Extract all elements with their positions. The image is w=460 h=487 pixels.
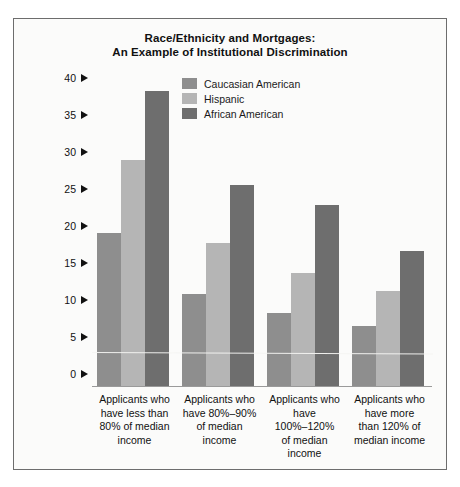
y-axis-tick: 5 <box>60 331 92 343</box>
x-axis-label-line: of median <box>262 434 348 448</box>
tick-arrow-icon <box>81 74 88 82</box>
x-axis-label-line: 100%–120% <box>262 420 348 434</box>
x-axis-label-line: Applicants who <box>177 393 263 407</box>
y-axis-tick-label: 40 <box>60 72 76 84</box>
tick-arrow-icon <box>81 259 88 267</box>
x-axis-category-label: Applicants whohave 80%–90%of medianincom… <box>177 393 263 447</box>
tick-arrow-icon <box>81 148 88 156</box>
x-axis-label-line: of median <box>177 420 263 434</box>
x-axis-label-line: have <box>262 407 348 421</box>
y-axis-tick: 10 <box>60 294 92 306</box>
y-axis-tick: 25 <box>60 183 92 195</box>
y-axis-tick: 0 <box>60 368 92 380</box>
x-axis-label-line: than 120% of <box>347 420 433 434</box>
bar-group <box>97 75 169 386</box>
x-axis-category-label: Applicants whohave100%–120%of medianinco… <box>262 393 348 461</box>
x-axis-label-line: income <box>262 447 348 461</box>
tick-arrow-icon <box>81 111 88 119</box>
x-axis-label-line: have less than <box>92 407 178 421</box>
y-axis-tick-label: 15 <box>60 257 76 269</box>
y-axis-tick-label: 10 <box>60 294 76 306</box>
chart-title: Race/Ethnicity and Mortgages: An Example… <box>14 31 446 59</box>
x-axis-label-line: income <box>177 434 263 448</box>
y-axis-tick-label: 5 <box>60 331 76 343</box>
x-axis-label-line: income <box>92 434 178 448</box>
y-axis-tick: 15 <box>60 257 92 269</box>
tick-arrow-icon <box>81 370 88 378</box>
x-axis-label-line: 80% of median <box>92 420 178 434</box>
bar <box>352 326 376 386</box>
x-axis-baseline <box>92 386 432 387</box>
bar <box>376 291 400 386</box>
y-axis-tick-label: 0 <box>60 368 76 380</box>
plot-area: Percent of applicants who are denied mor… <box>92 75 432 386</box>
bar-group <box>267 75 339 386</box>
y-axis-tick-label: 25 <box>60 183 76 195</box>
chart-title-line-1: Race/Ethnicity and Mortgages: <box>14 31 446 45</box>
y-axis-tick: 30 <box>60 146 92 158</box>
y-axis-tick-label: 30 <box>60 146 76 158</box>
y-axis-tick-label: 35 <box>60 109 76 121</box>
bar <box>97 233 121 386</box>
chart-figure: Race/Ethnicity and Mortgages: An Example… <box>13 18 447 470</box>
x-axis-label-line: Applicants who <box>92 393 178 407</box>
bar <box>182 294 206 386</box>
bar <box>267 313 291 386</box>
bar-group <box>182 75 254 386</box>
bar <box>230 185 254 386</box>
tick-arrow-icon <box>81 185 88 193</box>
y-axis-tick: 40 <box>60 72 92 84</box>
x-axis-category-label: Applicants whohave morethan 120% ofmedia… <box>347 393 433 447</box>
x-axis-label-line: have more <box>347 407 433 421</box>
x-axis-label-line: have 80%–90% <box>177 407 263 421</box>
x-axis-label-line: Applicants who <box>347 393 433 407</box>
chart-title-line-2: An Example of Institutional Discriminati… <box>14 45 446 59</box>
tick-arrow-icon <box>81 333 88 341</box>
x-axis-labels: Applicants whohave less than80% of media… <box>92 393 432 463</box>
x-axis-category-label: Applicants whohave less than80% of media… <box>92 393 178 447</box>
x-axis-label-line: Applicants who <box>262 393 348 407</box>
y-axis-tick: 20 <box>60 220 92 232</box>
bar <box>206 243 230 386</box>
x-axis-label-line: median income <box>347 434 433 448</box>
bar <box>315 205 339 386</box>
bar-group <box>352 75 424 386</box>
bar <box>291 273 315 386</box>
bar <box>145 91 169 386</box>
y-axis-tick-label: 20 <box>60 220 76 232</box>
tick-arrow-icon <box>81 296 88 304</box>
tick-arrow-icon <box>81 222 88 230</box>
bar <box>400 251 424 386</box>
y-axis-tick: 35 <box>60 109 92 121</box>
